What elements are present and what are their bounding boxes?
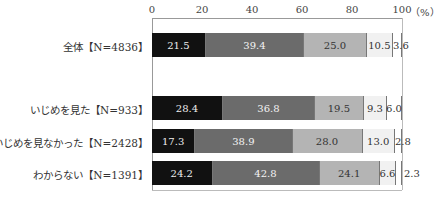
stacked-bar: 21.5 39.4 25.0 10.5 3.6	[152, 33, 402, 57]
bar-segment: 2.8	[395, 129, 402, 153]
bar-segment: 3.6	[393, 33, 402, 57]
x-tick: 80	[346, 4, 359, 15]
bar-segment: 28.0	[293, 129, 363, 153]
stacked-bar: 24.2 42.8 24.1 6.6	[152, 161, 402, 185]
x-tick: 0	[149, 4, 155, 15]
bar-segment: 42.8	[213, 161, 320, 185]
bar-segment: 9.3	[364, 96, 387, 120]
bar-segment: 13.0	[363, 129, 396, 153]
row-label: 全体【N=4836】	[63, 39, 148, 54]
row-label: わからない【N=1391】	[33, 167, 148, 182]
stacked-bar: 17.3 38.9 28.0 13.0 2.8	[152, 129, 402, 153]
stacked-bar: 28.4 36.8 19.5 9.3 6.0	[152, 96, 402, 120]
row-label: いじめを見た【N=933】	[30, 102, 148, 117]
row-label: いじめを見なかった【N=2428】	[0, 135, 148, 150]
bar-segment: 19.5	[315, 96, 364, 120]
bar-segment: 10.5	[367, 33, 393, 57]
x-tick: 60	[296, 4, 309, 15]
bar-segment: 21.5	[152, 33, 206, 57]
bottom-line	[152, 190, 402, 191]
bar-segment: 17.3	[152, 129, 195, 153]
x-tick: 20	[196, 4, 209, 15]
x-axis-line	[152, 18, 402, 19]
bar-segment: 39.4	[206, 33, 305, 57]
x-unit: （%）	[410, 4, 440, 19]
bar-segment: 6.0	[387, 96, 402, 120]
bar-segment: 36.8	[223, 96, 315, 120]
bar-segment	[396, 161, 402, 185]
bar-segment: 38.9	[195, 129, 292, 153]
bar-segment: 24.2	[152, 161, 213, 185]
bar-segment: 28.4	[152, 96, 223, 120]
bar-segment: 6.6	[380, 161, 397, 185]
x-tick: 40	[246, 4, 259, 15]
bar-segment: 25.0	[304, 33, 367, 57]
outside-value-label: 2.3	[404, 168, 420, 179]
x-tick: 100	[392, 4, 411, 15]
bar-segment: 24.1	[320, 161, 380, 185]
